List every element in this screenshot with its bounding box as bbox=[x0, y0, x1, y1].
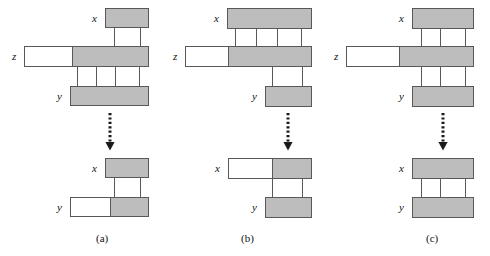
panel-a-edge-z-y-2 bbox=[96, 67, 97, 86]
panel-c-top-node-z-box bbox=[346, 46, 474, 67]
panel-b-edge-z-y-1 bbox=[272, 67, 273, 86]
panel-b-edge-x-z-2 bbox=[256, 29, 257, 46]
panel-a-transform-arrow bbox=[104, 113, 116, 151]
panel-c-bottom-node-x-label: x bbox=[399, 163, 404, 174]
panel-b: x z y bbox=[161, 0, 324, 256]
panel-a-bottom-edge-x-y-2 bbox=[140, 178, 141, 197]
panel-a-edge-z-y-4 bbox=[139, 67, 140, 86]
panel-c-edge-x-z-2 bbox=[440, 29, 441, 46]
panel-c-bottom-edge-x-y-2 bbox=[440, 179, 441, 197]
panel-c-top-node-x-label: x bbox=[399, 13, 404, 24]
panel-b-bottom-node-x-empty-segment bbox=[229, 159, 273, 178]
panel-c-top-node-y-label: y bbox=[399, 91, 404, 102]
panel-c-top-node-z-empty-segment bbox=[347, 47, 400, 66]
panel-b-top-node-z-box bbox=[185, 46, 312, 67]
panel-b-edge-x-z-3 bbox=[277, 29, 278, 46]
panel-b-bottom-node-y-label: y bbox=[252, 202, 257, 213]
panel-c-bottom-node-y-label: y bbox=[399, 202, 404, 213]
panel-a: x z y bbox=[0, 0, 163, 256]
panel-b-bottom-node-x-box bbox=[228, 158, 312, 179]
panel-a-top-node-x-box bbox=[105, 8, 149, 28]
panel-c: x z y bbox=[322, 0, 485, 256]
panel-a-bottom-node-x-box bbox=[105, 158, 149, 178]
panel-c-caption: (c) bbox=[426, 232, 438, 244]
panel-a-bottom-node-y-box bbox=[70, 197, 149, 217]
panel-b-transform-arrow bbox=[282, 113, 294, 151]
panel-b-bottom-edge-x-y-1 bbox=[272, 179, 273, 197]
panel-c-edge-z-y-1 bbox=[421, 67, 422, 86]
panel-a-edge-x-z-2 bbox=[140, 28, 141, 46]
panel-b-caption: (b) bbox=[241, 232, 254, 244]
panel-a-bottom-node-y-empty-segment bbox=[71, 198, 111, 216]
panel-b-edge-x-z-4 bbox=[301, 29, 302, 46]
panel-c-bottom-node-x-box bbox=[412, 158, 474, 179]
panel-b-edge-z-y-2 bbox=[302, 67, 303, 86]
panel-a-top-node-y-label: y bbox=[57, 91, 62, 102]
panel-c-edge-z-y-2 bbox=[440, 67, 441, 86]
panel-c-edge-x-z-1 bbox=[421, 29, 422, 46]
panel-b-edge-x-z-1 bbox=[235, 29, 236, 46]
panel-b-bottom-edge-x-y-2 bbox=[302, 179, 303, 197]
panel-a-bottom-edge-x-y-1 bbox=[114, 178, 115, 197]
panel-c-bottom-edge-x-y-1 bbox=[421, 179, 422, 197]
panel-c-bottom-node-y-box bbox=[412, 197, 474, 218]
panel-a-caption: (a) bbox=[96, 232, 108, 244]
panel-a-bottom-node-y-label: y bbox=[57, 202, 62, 213]
figure-canvas: x z y bbox=[0, 0, 490, 256]
panel-b-top-node-z-empty-segment bbox=[186, 47, 229, 66]
panel-c-transform-arrow bbox=[437, 113, 449, 151]
panel-a-top-node-x-label: x bbox=[92, 13, 97, 24]
panel-a-edge-x-z-1 bbox=[114, 28, 115, 46]
panel-a-bottom-node-x-label: x bbox=[92, 163, 97, 174]
panel-b-top-node-y-label: y bbox=[252, 91, 257, 102]
panel-b-top-node-y-box bbox=[265, 86, 312, 107]
panel-a-top-node-y-box bbox=[70, 86, 149, 106]
panel-b-top-node-z-label: z bbox=[173, 51, 177, 62]
panel-a-edge-z-y-3 bbox=[115, 67, 116, 86]
panel-c-top-node-y-box bbox=[412, 86, 474, 107]
panel-c-top-node-z-label: z bbox=[334, 51, 338, 62]
panel-b-top-node-x-label: x bbox=[214, 13, 219, 24]
panel-c-bottom-edge-x-y-3 bbox=[465, 179, 466, 197]
panel-b-bottom-node-x-label: x bbox=[215, 163, 220, 174]
panel-b-top-node-x-box bbox=[227, 8, 312, 29]
panel-a-top-node-z-empty-segment bbox=[25, 47, 73, 66]
panel-a-top-node-z-box bbox=[24, 46, 149, 67]
panel-c-edge-x-z-3 bbox=[465, 29, 466, 46]
panel-c-edge-z-y-3 bbox=[465, 67, 466, 86]
panel-c-top-node-x-box bbox=[412, 8, 474, 29]
panel-a-top-node-z-label: z bbox=[12, 51, 16, 62]
panel-a-edge-z-y-1 bbox=[77, 67, 78, 86]
panel-b-bottom-node-y-box bbox=[265, 197, 312, 218]
